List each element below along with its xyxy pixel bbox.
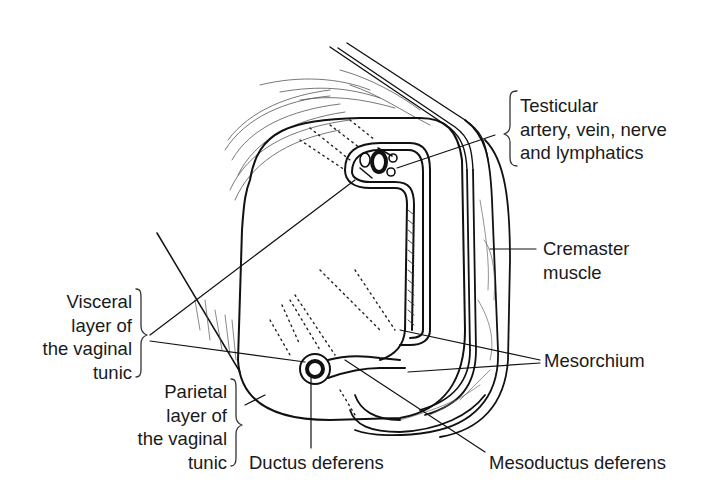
label-mesorchium: Mesorchium (544, 349, 645, 373)
ductus-deferens-structure (300, 354, 405, 384)
label-line: Visceral (43, 290, 132, 314)
dotted-shading (270, 120, 395, 415)
label-line: layer of (138, 404, 227, 428)
bracket-testicular (504, 91, 517, 166)
bracket-parietal (231, 379, 242, 466)
label-line: layer of (43, 314, 132, 338)
label-line: muscle (543, 261, 629, 285)
bracket-visceral (136, 289, 147, 377)
label-line: tunic (138, 451, 227, 475)
label-line: and lymphatics (520, 141, 667, 165)
label-parietal-layer: Parietal layer of the vaginal tunic (138, 380, 227, 474)
label-testicular-vessels: Testicular artery, vein, nerve and lymph… (520, 94, 667, 165)
label-line: Mesorchium (544, 349, 645, 373)
label-line: tunic (43, 361, 132, 385)
testicular-vessels (360, 148, 397, 178)
label-line: artery, vein, nerve (520, 118, 667, 142)
label-line: the vaginal (43, 337, 132, 361)
label-mesoductus-deferens: Mesoductus deferens (489, 451, 666, 475)
label-line: the vaginal (138, 427, 227, 451)
mesorchium-loop (345, 143, 430, 360)
label-ductus-deferens: Ductus deferens (249, 451, 384, 475)
label-line: Cremaster (543, 237, 629, 261)
label-cremaster-muscle: Cremaster muscle (543, 237, 629, 284)
label-line: Parietal (138, 380, 227, 404)
label-line: Ductus deferens (249, 451, 384, 475)
cremaster-outline (355, 120, 510, 437)
label-line: Testicular (520, 94, 667, 118)
label-visceral-layer: Visceral layer of the vaginal tunic (43, 290, 132, 384)
label-line: Mesoductus deferens (489, 451, 666, 475)
